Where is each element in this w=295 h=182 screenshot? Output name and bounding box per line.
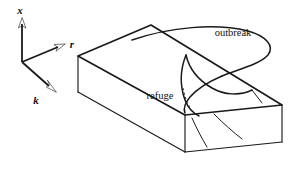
figure-canvas: x r k outbreak refuge — [0, 0, 295, 182]
axis-k: k — [22, 62, 56, 106]
slab-top-face — [78, 25, 282, 115]
cusp-fold-curves — [132, 27, 270, 116]
axis-k-arrowhead — [46, 81, 56, 92]
axis-k-label: k — [33, 94, 39, 106]
front-face-curve-right — [214, 114, 242, 139]
front-face-curves — [192, 90, 262, 147]
cusp-catastrophe-figure: x r k outbreak refuge — [0, 0, 295, 182]
front-face-curve-left — [192, 118, 207, 147]
axis-r-line — [22, 47, 58, 62]
axis-k-line — [22, 62, 49, 86]
axis-r: r — [22, 38, 75, 62]
parameter-slab — [78, 25, 282, 152]
slab-front-right-bottom-edge — [185, 142, 282, 152]
slab-front-left-bottom-edge — [78, 92, 185, 152]
axis-x: x — [16, 4, 25, 62]
outbreak-label: outbreak — [215, 27, 252, 38]
refuge-label: refuge — [147, 90, 174, 101]
fold-curve-inner-tail — [186, 55, 252, 94]
axis-r-label: r — [70, 38, 75, 50]
axis-x-label: x — [16, 4, 23, 16]
axis-triad: x r k — [16, 4, 75, 106]
